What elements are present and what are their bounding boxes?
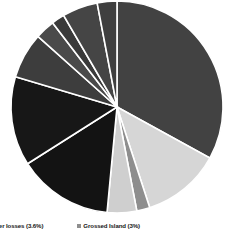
chart-legend: Number losses (3.6%) Grossed Island (3%)	[0, 222, 233, 233]
legend-item-label: Number losses (3.6%)	[0, 222, 43, 229]
legend-swatch-icon	[77, 224, 81, 228]
pie-chart: Number losses (3.6%) Grossed Island (3%)	[0, 0, 233, 233]
pie-chart-svg	[0, 0, 233, 233]
legend-item[interactable]: Grossed Island (3%)	[77, 222, 140, 229]
legend-item[interactable]: Number losses (3.6%)	[0, 222, 43, 229]
legend-item-label: Grossed Island (3%)	[83, 222, 140, 229]
